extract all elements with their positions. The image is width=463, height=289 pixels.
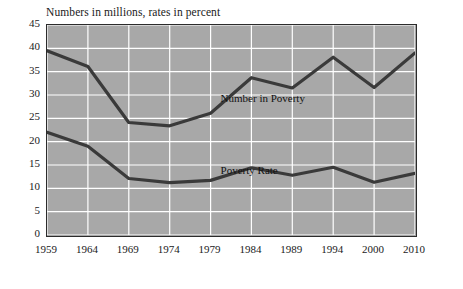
x-tick-label: 2010 xyxy=(389,243,439,255)
y-tick-label: 25 xyxy=(0,110,40,122)
plot-area xyxy=(46,24,417,237)
y-tick-label: 45 xyxy=(0,17,40,29)
chart-figure: Numbers in millions, rates in percent 05… xyxy=(0,0,463,289)
series-label: Poverty Rate xyxy=(221,164,278,176)
chart-caption: Numbers in millions, rates in percent xyxy=(46,6,220,18)
y-tick-label: 15 xyxy=(0,157,40,169)
y-tick-label: 20 xyxy=(0,134,40,146)
y-tick-label: 35 xyxy=(0,64,40,76)
y-tick-label: 10 xyxy=(0,180,40,192)
y-tick-label: 5 xyxy=(0,204,40,216)
y-tick-label: 0 xyxy=(0,227,40,239)
y-tick-label: 40 xyxy=(0,40,40,52)
series-label: Number in Poverty xyxy=(221,92,305,104)
y-tick-label: 30 xyxy=(0,87,40,99)
chart-svg xyxy=(47,25,415,235)
